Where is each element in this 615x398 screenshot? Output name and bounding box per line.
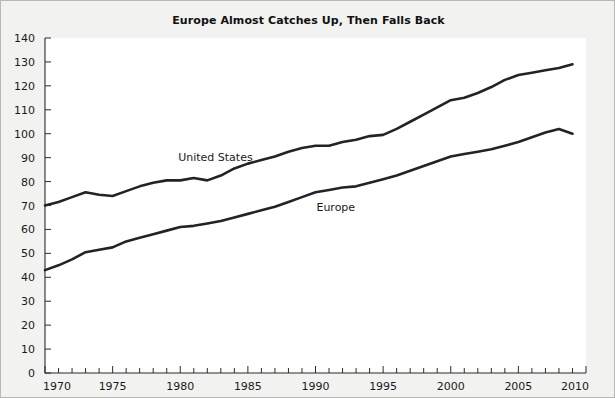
x-tick-label: 1975 — [99, 380, 127, 393]
x-tick-label: 1985 — [234, 380, 262, 393]
y-tick-label: 130 — [14, 56, 35, 69]
y-tick-label: 100 — [14, 128, 35, 141]
y-axis-tick-labels: 0102030405060708090100110120130140 — [14, 32, 35, 380]
x-tick-label: 1980 — [166, 380, 194, 393]
chart-figure: Europe Almost Catches Up, Then Falls Bac… — [0, 0, 615, 398]
y-tick-label: 80 — [21, 176, 35, 189]
x-axis-tick-labels: 197019751980198519901995200020052010 — [43, 380, 589, 393]
x-tick-label: 2000 — [437, 380, 465, 393]
y-tick-label: 20 — [21, 319, 35, 332]
y-tick-label: 70 — [21, 200, 35, 213]
y-tick-label: 90 — [21, 152, 35, 165]
y-tick-label: 30 — [21, 295, 35, 308]
y-tick-label: 120 — [14, 80, 35, 93]
x-tick-label: 2005 — [504, 380, 532, 393]
x-tick-label: 2010 — [561, 380, 589, 393]
y-tick-label: 40 — [21, 271, 35, 284]
line-chart-plot: 0102030405060708090100110120130140 19701… — [1, 1, 615, 398]
x-tick-label: 1995 — [369, 380, 397, 393]
x-tick-label: 1990 — [302, 380, 330, 393]
y-tick-label: 10 — [21, 343, 35, 356]
y-tick-label: 50 — [21, 247, 35, 260]
x-tick-label: 1970 — [43, 380, 71, 393]
y-tick-label: 140 — [14, 32, 35, 45]
series-label-europe: Europe — [316, 201, 355, 214]
y-tick-label: 110 — [14, 104, 35, 117]
y-tick-label: 0 — [28, 367, 35, 380]
series-label-united-states: United States — [178, 151, 253, 164]
y-tick-label: 60 — [21, 223, 35, 236]
